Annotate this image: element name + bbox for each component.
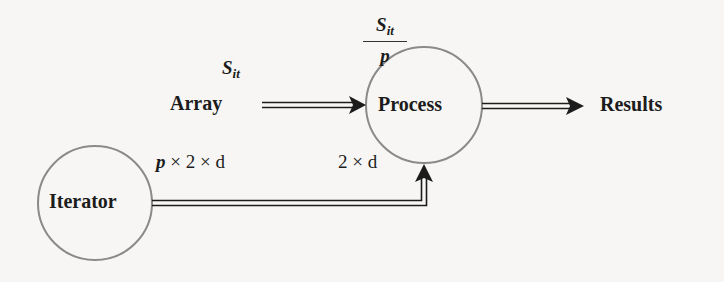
iterator-output-label: p × 2 × d	[156, 152, 225, 171]
fraction-denominator: p	[363, 42, 407, 67]
array-edge-label: Sit	[222, 58, 240, 80]
process-node-label: Process	[378, 94, 442, 114]
process-to-results-arrow	[482, 97, 584, 115]
results-node-label: Results	[600, 94, 662, 114]
array-node-label: Array	[170, 93, 222, 113]
process-input-fraction-label: Sit p	[363, 14, 407, 67]
iterator-node-label: Iterator	[49, 191, 117, 211]
array-edge-label-main: S	[222, 57, 233, 78]
process-bottom-input-label: 2 × d	[338, 152, 377, 171]
iterator-output-label-p: p	[156, 151, 166, 172]
fraction-numerator-main: S	[376, 14, 387, 35]
diagram-graphics	[0, 0, 724, 282]
fraction-numerator-sub: it	[387, 23, 394, 38]
array-edge-label-sub: it	[233, 66, 240, 81]
array-to-process-arrow	[262, 96, 366, 114]
fraction-numerator: Sit	[363, 14, 407, 42]
iterator-output-label-rest: × 2 × d	[166, 151, 225, 172]
flow-diagram: Array Process Results Iterator Sit Sit p…	[0, 0, 724, 282]
